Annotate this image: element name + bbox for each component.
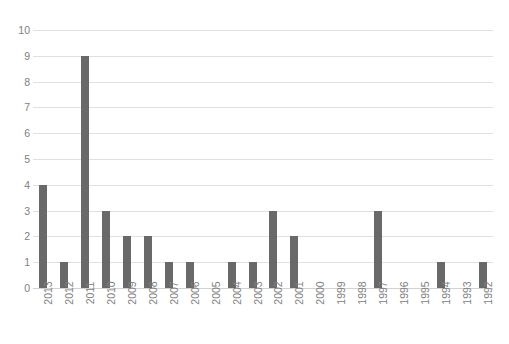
x-tick-slot: 1992 [472,291,493,344]
y-tick-label: 9 [4,51,30,61]
bar-slot [54,30,75,288]
x-tick-label: 2009 [127,281,138,304]
bar[interactable] [290,236,298,288]
y-tick-label: 10 [4,25,30,35]
y-tick-label: 1 [4,257,30,267]
y-tick-label: 5 [4,154,30,164]
bar[interactable] [123,236,131,288]
bar[interactable] [102,211,110,288]
bar-slot [472,30,493,288]
x-tick-label: 2013 [43,281,54,304]
bar-slot [33,30,54,288]
x-tick-label: 2011 [85,282,96,305]
x-tick-slot: 2013 [33,291,54,344]
x-tick-label: 1997 [378,281,389,304]
bar-slot [242,30,263,288]
x-tick-slot: 2010 [96,291,117,344]
x-tick-label: 2005 [211,281,222,304]
x-tick-slot: 2000 [305,291,326,344]
bar-slot [388,30,409,288]
x-tick-slot: 2002 [263,291,284,344]
y-tick-label: 0 [4,283,30,293]
bar[interactable] [81,56,89,288]
bar-chart: 109876543210 201320122011201020092008200… [0,0,509,344]
bar[interactable] [144,236,152,288]
x-tick-label: 2000 [315,281,326,304]
x-tick-label: 1995 [420,281,431,304]
x-tick-slot: 1993 [451,291,472,344]
x-tick-slot: 2003 [242,291,263,344]
bar-slot [75,30,96,288]
bar[interactable] [374,211,382,288]
x-tick-slot: 2011 [75,291,96,344]
y-tick-label: 6 [4,128,30,138]
bar-slot [158,30,179,288]
bar-slot [284,30,305,288]
x-tick-label: 1993 [462,281,473,304]
x-tick-slot: 1996 [388,291,409,344]
bar-slot [263,30,284,288]
x-tick-label: 1998 [357,281,368,304]
x-tick-label: 1992 [483,281,494,304]
y-tick-label: 4 [4,180,30,190]
bar-slot [305,30,326,288]
x-tick-label: 2001 [294,281,305,304]
x-tick-label: 2010 [106,281,117,304]
x-tick-slot: 2012 [54,291,75,344]
bar-slot [117,30,138,288]
x-tick-label: 2007 [169,281,180,304]
y-tick-label: 7 [4,102,30,112]
x-tick-label: 1994 [441,281,452,304]
bar-slot [200,30,221,288]
x-tick-slot: 2006 [179,291,200,344]
x-tick-label: 2006 [190,281,201,304]
bar-slot [179,30,200,288]
x-tick-label: 2012 [64,281,75,304]
bar-slot [138,30,159,288]
x-tick-slot: 2004 [221,291,242,344]
x-tick-slot: 2001 [284,291,305,344]
x-tick-slot: 2008 [138,291,159,344]
y-tick-label: 8 [4,77,30,87]
x-tick-slot: 1997 [368,291,389,344]
x-tick-slot: 1995 [409,291,430,344]
x-tick-label: 2003 [253,281,264,304]
x-tick-label: 1999 [336,281,347,304]
x-tick-slot: 2009 [117,291,138,344]
x-tick-label: 1996 [399,281,410,304]
bar-slot [96,30,117,288]
x-tick-label: 2002 [273,281,284,304]
y-tick-label: 3 [4,206,30,216]
bar-slot [326,30,347,288]
x-tick-label: 2004 [232,281,243,304]
y-tick-label: 2 [4,231,30,241]
bar[interactable] [269,211,277,288]
bar[interactable] [39,185,47,288]
y-axis: 109876543210 [0,0,30,344]
bar-slot [409,30,430,288]
x-tick-slot: 2005 [200,291,221,344]
x-tick-slot: 2007 [158,291,179,344]
x-tick-slot: 1999 [326,291,347,344]
x-axis: 2013201220112010200920082007200620052004… [33,291,493,344]
bars-layer [33,30,493,288]
bar-slot [368,30,389,288]
x-tick-slot: 1994 [430,291,451,344]
bar-slot [221,30,242,288]
bar-slot [430,30,451,288]
bar-slot [347,30,368,288]
x-tick-label: 2008 [148,281,159,304]
bar-slot [451,30,472,288]
x-tick-slot: 1998 [347,291,368,344]
